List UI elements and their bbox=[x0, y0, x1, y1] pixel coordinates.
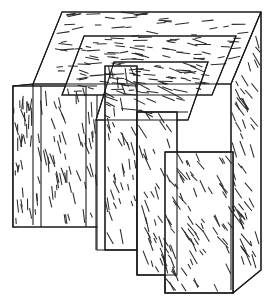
hatch-dash bbox=[91, 102, 92, 117]
hatch-dash bbox=[142, 92, 149, 93]
slab-2-front-face bbox=[105, 66, 137, 250]
hatch-dash bbox=[194, 58, 206, 59]
hatch-dash bbox=[35, 209, 36, 215]
nested-block-illustration bbox=[0, 0, 269, 307]
hatch-dash bbox=[110, 38, 124, 39]
hatch-dash bbox=[65, 172, 66, 182]
hatch-dash bbox=[147, 47, 153, 48]
hatch-dash bbox=[125, 27, 131, 28]
slab-4-front-face bbox=[165, 152, 233, 293]
hatch-dash bbox=[64, 24, 75, 25]
hatch-dash bbox=[28, 115, 29, 129]
figure-canvas bbox=[0, 0, 269, 307]
outer-front-face bbox=[13, 86, 97, 227]
hatch-dash bbox=[157, 23, 166, 24]
hatch-dash bbox=[133, 14, 147, 15]
